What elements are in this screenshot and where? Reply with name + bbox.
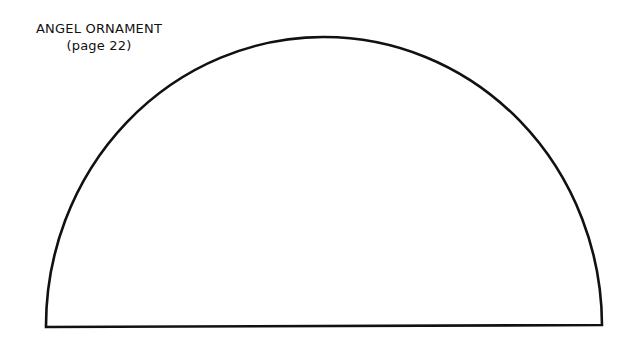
semicircle-outline — [46, 37, 602, 327]
semicircle-pattern — [0, 0, 633, 342]
